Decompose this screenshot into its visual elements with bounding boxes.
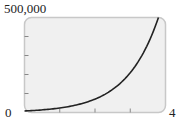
chart-plot-area — [0, 0, 179, 132]
